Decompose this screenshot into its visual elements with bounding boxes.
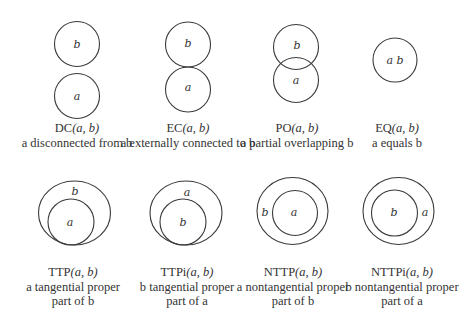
relation-description: a equals b	[337, 136, 457, 151]
region-label-ab: a b	[386, 54, 403, 67]
region-label-a: a	[67, 216, 74, 229]
caption-eq: EQ(a, b) a equals b	[337, 121, 457, 150]
relation-name: TTP(a, b)	[13, 265, 133, 280]
dc-diagram: b a	[55, 22, 100, 119]
ttp-diagram: b a	[39, 181, 111, 245]
region-label-b: b	[184, 37, 191, 50]
nttp-diagram: b a	[257, 178, 328, 245]
ec-diagram: b a	[166, 22, 211, 112]
caption-nttpi: NTTPi(a, b) b nontangential proper part …	[332, 265, 468, 309]
nttpi-diagram: b a	[363, 178, 434, 245]
relation-description-line1: b nontangential proper	[332, 280, 468, 295]
region-label-b: b	[261, 206, 268, 219]
region-label-a: a	[74, 90, 81, 103]
eq-diagram: a b	[373, 38, 417, 82]
relation-description-line1: a tangential proper	[13, 280, 133, 295]
relation-description-line2: part of b	[13, 294, 133, 309]
ttpi-diagram: a b	[150, 181, 222, 245]
region-label-a: a	[185, 81, 192, 94]
region-label-a: a	[422, 206, 429, 219]
relation-description-line2: part of a	[332, 294, 468, 309]
caption-ttp: TTP(a, b) a tangential proper part of b	[13, 265, 133, 309]
region-label-a: a	[291, 206, 298, 219]
po-diagram: b a	[274, 25, 319, 103]
relation-name: NTTPi(a, b)	[332, 265, 468, 280]
region-label-b: b	[293, 39, 300, 52]
region-label-b: b	[390, 206, 397, 219]
region-label-b: b	[179, 216, 186, 229]
region-label-b: b	[73, 38, 80, 51]
region-label-a: a	[293, 74, 300, 87]
relation-name: EQ(a, b)	[337, 121, 457, 136]
region-label-a: a	[184, 186, 191, 199]
region-label-b: b	[71, 185, 78, 198]
